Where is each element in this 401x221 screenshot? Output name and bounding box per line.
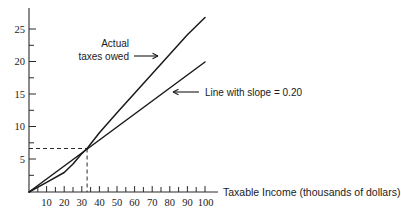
x-axis-title-label: Taxable Income (thousands of dollars) [223, 186, 400, 198]
x-axis-tick-labels: 10 20 30 40 50 60 70 80 90 100 [41, 197, 213, 208]
x-tick-label: 30 [77, 197, 88, 208]
annotation-line-with-slope: Line with slope = 0.20 [173, 87, 302, 98]
x-tick-label: 100 [198, 197, 214, 208]
y-axis-ticks [29, 29, 36, 175]
annotation-actual-taxes-owed-line1: Actual [101, 38, 129, 49]
x-tick-label: 70 [147, 197, 158, 208]
x-tick-label: 90 [182, 197, 193, 208]
annotation-actual-taxes-owed: Actual taxes owed [78, 38, 158, 62]
y-tick-label: 5 [20, 154, 25, 165]
y-tick-label: 10 [15, 121, 26, 132]
series-line-slope-020 [29, 62, 205, 192]
x-axis-title: Taxable Income (thousands of dollars) [223, 186, 400, 198]
x-tick-label: 50 [112, 197, 123, 208]
chart-figure: 25 20 15 10 5 [0, 0, 401, 221]
y-axis-tick-labels: 25 20 15 10 5 [15, 24, 26, 165]
x-tick-label: 20 [59, 197, 70, 208]
annotation-line-with-slope-label: Line with slope = 0.20 [205, 87, 302, 98]
chart-svg: 25 20 15 10 5 [0, 0, 401, 221]
y-tick-label: 25 [15, 24, 26, 35]
x-tick-label: 10 [41, 197, 52, 208]
x-tick-label: 80 [165, 197, 176, 208]
x-tick-label: 60 [129, 197, 140, 208]
x-axis-ticks [38, 186, 205, 192]
annotation-actual-taxes-owed-line2: taxes owed [78, 51, 129, 62]
y-tick-label: 15 [15, 89, 26, 100]
y-tick-label: 20 [15, 56, 26, 67]
x-tick-label: 40 [94, 197, 105, 208]
